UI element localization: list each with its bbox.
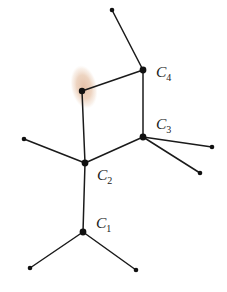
highlight-layer [67,63,102,111]
skeleton-svg: C1C2C3C4 [0,0,227,292]
bond-c3-c2 [85,137,143,163]
bond-c1-terminal-bot-right [83,232,136,270]
vertex-c4 [140,67,147,74]
label-c2-base: C [97,166,108,183]
label-c2: C2 [97,166,112,186]
molecular-diagram-canvas: C1C2C3C4 [0,0,227,292]
label-c4-base: C [156,63,167,80]
label-c3-subscript: 3 [166,124,171,135]
bond-c3-terminal-right-low [143,137,200,173]
terminal-top [110,8,115,13]
highlighted-atom-marker [67,63,102,111]
bond-c2-c1 [83,163,85,232]
terminal-left-mid [22,137,27,142]
vertex-c3 [140,134,147,141]
terminal-bot-right [134,268,139,273]
label-c3: C3 [156,115,171,135]
bond-c2-terminal-left-mid [24,139,85,163]
bond-layer [24,10,212,270]
label-c4: C4 [156,63,171,83]
bond-c1-terminal-bot-left [30,232,83,268]
terminal-right-up [210,145,215,150]
terminal-right-low [198,171,203,176]
label-c3-base: C [156,115,167,132]
vertex-highlighted [79,88,85,94]
vertex-layer [22,8,215,273]
vertex-c2 [82,160,89,167]
bond-c3-terminal-right-up [143,137,212,147]
terminal-bot-left [28,266,33,271]
label-c1: C1 [96,214,111,234]
label-c4-subscript: 4 [166,72,171,83]
label-c1-subscript: 1 [106,223,111,234]
vertex-c1 [80,229,87,236]
bond-c4-terminal-top [112,10,143,70]
label-c1-base: C [96,214,107,231]
label-c2-subscript: 2 [107,175,112,186]
